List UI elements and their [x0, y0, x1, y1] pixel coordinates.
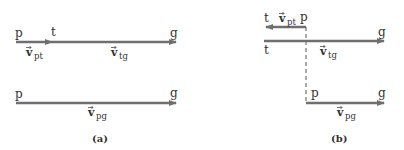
velocity-diagram: p t g v pt v tg p g v pg (a) t p v — [0, 0, 404, 150]
svg-text:pg: pg — [345, 111, 356, 121]
label-g: g — [170, 26, 178, 40]
label-t: t — [264, 43, 269, 57]
label-g: g — [170, 86, 178, 100]
svg-text:v: v — [319, 45, 327, 58]
label-p: p — [15, 26, 23, 40]
vector-label-vtg: v tg — [319, 45, 337, 60]
label-p: p — [311, 86, 319, 100]
svg-text:pt: pt — [287, 17, 296, 27]
label-g: g — [378, 86, 386, 100]
panel-b: t p v pt t g v tg p g v pg (b) — [264, 10, 386, 144]
svg-text:pt: pt — [34, 51, 43, 61]
label-t: t — [264, 11, 269, 25]
svg-text:v: v — [278, 12, 286, 25]
caption-b: (b) — [331, 133, 347, 144]
svg-text:v: v — [87, 106, 95, 119]
vector-label-vpg: v pg — [336, 106, 356, 121]
vector-label-vpt: v pt — [278, 12, 296, 27]
svg-text:v: v — [110, 46, 118, 59]
svg-text:tg: tg — [328, 50, 337, 60]
label-g: g — [378, 25, 386, 39]
svg-text:pg: pg — [96, 111, 107, 121]
vector-label-vpt: v pt — [25, 46, 43, 61]
label-t: t — [51, 25, 56, 39]
svg-text:v: v — [25, 46, 33, 59]
svg-text:tg: tg — [119, 51, 128, 61]
vector-label-vtg: v tg — [110, 46, 128, 61]
caption-a: (a) — [92, 133, 108, 144]
label-p: p — [300, 10, 308, 24]
svg-text:v: v — [336, 106, 344, 119]
label-p: p — [15, 87, 23, 101]
vector-label-vpg: v pg — [87, 106, 107, 121]
panel-a: p t g v pt v tg p g v pg (a) — [15, 25, 178, 144]
